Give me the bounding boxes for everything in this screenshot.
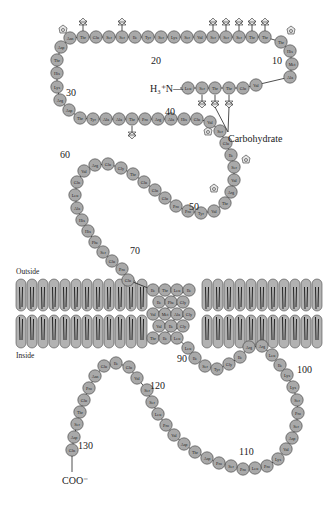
svg-text:Glu: Glu [105, 162, 112, 167]
amino-acid-residue: Glu [123, 361, 135, 373]
svg-text:Thr: Thr [249, 35, 256, 40]
amino-acid-residue: Arg [54, 94, 66, 106]
amino-acid-residue: Pro [83, 382, 95, 394]
svg-text:Glu: Glu [109, 259, 116, 264]
lipid-molecule [246, 279, 256, 348]
svg-text:Ala: Ala [74, 206, 80, 211]
svg-text:Tyr: Tyr [198, 211, 204, 216]
amino-acid-residue: Ser [207, 31, 219, 43]
svg-text:Thr: Thr [80, 35, 87, 40]
amino-acid-residue: Phe [89, 236, 101, 248]
residue-number-label: 130 [78, 440, 93, 451]
amino-acid-residue: Ser [228, 161, 240, 173]
svg-text:Arg: Arg [259, 344, 266, 349]
amino-acid-residue: Val [280, 443, 292, 455]
svg-text:Asn: Asn [67, 36, 75, 41]
svg-text:Ser: Ser [184, 35, 190, 40]
amino-acid-residue: His [51, 67, 63, 79]
svg-text:Thr: Thr [150, 336, 157, 341]
amino-acid-residue: Val [208, 205, 220, 217]
svg-text:Leu: Leu [269, 353, 276, 358]
svg-text:Ile: Ile [151, 288, 156, 293]
svg-text:Asp: Asp [289, 436, 296, 441]
svg-text:Leu: Leu [252, 466, 259, 471]
amino-acid-residue: Ala [284, 71, 296, 83]
svg-text:Tyr: Tyr [90, 117, 96, 122]
amino-acid-residue: Lys [168, 31, 180, 43]
svg-text:Phe: Phe [168, 300, 174, 305]
svg-text:Glu: Glu [101, 364, 108, 369]
lipid-molecule [279, 279, 289, 348]
lipid-molecule [49, 279, 59, 348]
amino-acid-residue: Leu [69, 189, 81, 201]
lipid-molecule [71, 279, 81, 348]
lipid-molecule [16, 279, 26, 348]
svg-text:Ala: Ala [168, 117, 174, 122]
o-linked-glycan-icon [261, 18, 269, 31]
amino-acid-residue: Gly [115, 162, 127, 174]
amino-acid-residue: Ser [225, 460, 237, 472]
lipid-molecule [27, 279, 37, 348]
svg-text:Arg: Arg [57, 98, 64, 103]
amino-acid-residue: Gly [177, 320, 189, 332]
svg-text:Gly: Gly [180, 324, 187, 329]
amino-acid-residue: Glu [90, 31, 102, 43]
svg-text:Ile: Ile [169, 324, 174, 329]
svg-text:Glu: Glu [152, 188, 159, 193]
amino-acid-residue: Ile [147, 284, 159, 296]
amino-acid-residue: Ile [110, 357, 122, 369]
svg-text:Thr: Thr [130, 172, 137, 177]
svg-text:Gly: Gly [180, 300, 187, 305]
amino-acid-residue: Ser [155, 31, 167, 43]
amino-acid-residue: Ser [291, 394, 303, 406]
svg-text:His: His [85, 229, 91, 234]
svg-text:Ser: Ser [119, 35, 125, 40]
svg-text:Glu: Glu [125, 278, 132, 283]
o-linked-glycan-icon [235, 18, 243, 31]
amino-acid-residue: Ile [225, 149, 237, 161]
amino-acid-residue: Ser [199, 360, 211, 372]
svg-text:Pro: Pro [173, 204, 179, 209]
n-terminus-label: H₃⁺N— [150, 83, 184, 94]
svg-text:Ile: Ile [229, 153, 234, 158]
svg-text:Glu: Glu [141, 180, 148, 185]
amino-acid-residue: Leu [171, 332, 183, 344]
svg-text:Glu: Glu [240, 86, 247, 91]
amino-acid-residue: Thr [159, 284, 171, 296]
residue-number-label: 60 [60, 149, 70, 160]
lipid-molecule [93, 279, 103, 348]
lipid-molecule [82, 279, 92, 348]
amino-acid-residue: Pro [213, 457, 225, 469]
svg-text:Ile: Ile [278, 363, 283, 368]
amino-acid-residue: Ser [214, 125, 226, 137]
peptide-backbone [57, 37, 298, 469]
amino-acid-residue: Thr [147, 332, 159, 344]
residue-number-label: 120 [150, 380, 165, 391]
amino-acid-residue: Glu [149, 184, 161, 196]
svg-text:Thr: Thr [77, 410, 84, 415]
amino-acid-residue: Val [228, 174, 240, 186]
svg-text:Thr: Thr [278, 40, 285, 45]
svg-text:Thr: Thr [222, 201, 229, 206]
svg-text:His: His [181, 117, 187, 122]
svg-text:Glu: Glu [81, 398, 88, 403]
amino-acid-residue: Asn [64, 32, 76, 44]
amino-acid-residue: Ile [234, 351, 246, 363]
amino-acid-residue: Gly [183, 308, 195, 320]
svg-text:Leu: Leu [185, 86, 192, 91]
lipid-molecule [312, 279, 322, 348]
amino-acid-residue: Lys [281, 369, 293, 381]
o-linked-glycan-icon [211, 95, 219, 108]
amino-acid-residue: Thr [74, 406, 86, 418]
lipid-molecule [290, 279, 300, 348]
svg-text:Ile: Ile [157, 300, 162, 305]
amino-acid-residue: Ser [97, 246, 109, 258]
n-linked-glycan-icon [242, 155, 250, 163]
amino-acid-residue: Gln [66, 444, 78, 456]
svg-text:Arg: Arg [228, 190, 235, 195]
o-linked-glycan-icon [79, 18, 87, 31]
amino-acid-residue: Leu [152, 408, 164, 420]
amino-acid-residue: Glu [106, 255, 118, 267]
svg-text:Glu: Glu [162, 196, 169, 201]
svg-text:Gln: Gln [69, 448, 76, 453]
